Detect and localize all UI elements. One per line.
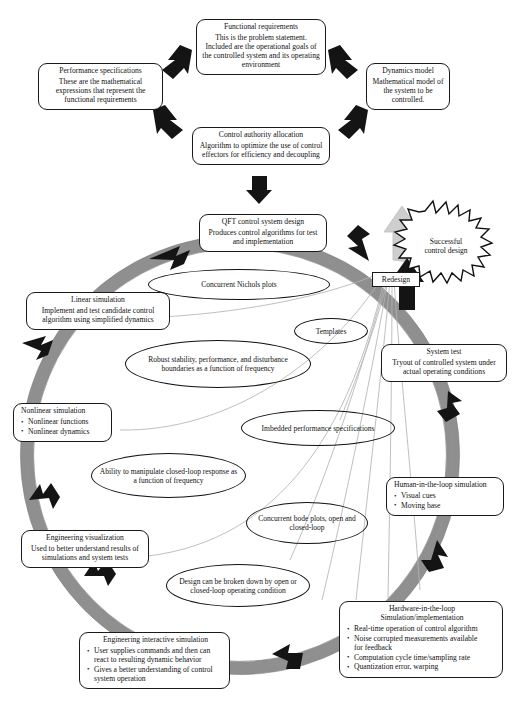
annotation-text: Ability to manipulate closed-loop respon…: [92, 467, 245, 485]
annotation-text: Concurrent bode plots, open and closed-l…: [247, 514, 367, 532]
annotation-text: Design can be broken down by open or clo…: [167, 577, 309, 595]
annotation-text: Robust stability, performance, and distu…: [126, 355, 310, 373]
list-item: Moving base: [394, 502, 498, 511]
node-body: These are the mathematical expressions t…: [44, 78, 157, 105]
node-control-authority-allocation[interactable]: Control authority allocation Algorithm t…: [192, 127, 330, 165]
node-title: Nonlinear simulation: [21, 407, 106, 416]
node-nonlinear-simulation[interactable]: Nonlinear simulation Nonlinear functions…: [13, 403, 112, 442]
annotation-concurrent-bode-plots[interactable]: Concurrent bode plots, open and closed-l…: [246, 502, 368, 544]
diagram-canvas: Functional requirements This is the prob…: [0, 0, 521, 716]
node-title-line2: Simulation/implementation: [347, 614, 497, 623]
node-title: Engineering interactive simulation: [87, 636, 224, 645]
node-engineering-interactive-simulation[interactable]: Engineering interactive simulation User …: [79, 632, 230, 689]
redesign-box[interactable]: Redesign: [372, 272, 420, 287]
annotation-templates[interactable]: Templates: [294, 318, 368, 344]
node-title: Dynamics model: [372, 67, 444, 76]
node-title: Engineering visualization: [27, 534, 143, 543]
node-title: Performance specifications: [44, 67, 157, 76]
node-bullet-list: User supplies commands and then can reac…: [87, 647, 224, 683]
list-item: Gives a better understanding of control …: [87, 666, 224, 684]
node-hardware-in-the-loop[interactable]: Hardware-in-the-loop Simulation/implemen…: [339, 601, 503, 678]
node-functional-requirements[interactable]: Functional requirements This is the prob…: [196, 19, 326, 75]
burst-line1: Successful: [430, 237, 462, 246]
node-body: Mathematical model of the system to be c…: [372, 78, 444, 105]
node-bullet-list: Nonlinear functions Nonlinear dynamics: [21, 418, 106, 436]
node-title: Control authority allocation: [198, 131, 324, 140]
node-title: Functional requirements: [202, 23, 320, 32]
node-system-test[interactable]: System test Tryout of controlled system …: [381, 344, 507, 382]
annotation-text: Imbedded performance specifications: [256, 424, 381, 433]
node-qft-control-system-design[interactable]: QFT control system design Produces contr…: [199, 214, 327, 252]
node-body: Implement and test candidate control alg…: [32, 307, 164, 325]
node-engineering-visualization[interactable]: Engineering visualization Used to better…: [21, 530, 149, 568]
node-body: This is the problem statement. Included …: [202, 34, 320, 70]
node-dynamics-model[interactable]: Dynamics model Mathematical model of the…: [366, 63, 450, 110]
node-title: System test: [387, 348, 501, 357]
node-title: Human-in-the-loop simulation: [394, 481, 498, 490]
node-bullet-list: Real-time operation of control algorithm…: [347, 625, 497, 672]
node-title: QFT control system design: [205, 218, 321, 227]
redesign-label: Redesign: [382, 275, 410, 284]
node-linear-simulation[interactable]: Linear simulation Implement and test can…: [26, 292, 170, 330]
node-human-in-the-loop[interactable]: Human-in-the-loop simulation Visual cues…: [386, 477, 504, 516]
burst-line2: control design: [424, 246, 467, 255]
node-body: Algorithm to optimize the use of control…: [198, 142, 324, 160]
node-bullet-list: Visual cues Moving base: [394, 492, 498, 510]
node-title: Linear simulation: [32, 296, 164, 305]
node-body: Used to better understand results of sim…: [27, 545, 143, 563]
annotation-robust-stability[interactable]: Robust stability, performance, and distu…: [125, 340, 311, 388]
list-item: Nonlinear dynamics: [21, 428, 106, 437]
annotation-text: Concurrent Nichols plots: [195, 280, 282, 289]
node-body: Tryout of controlled system under actual…: [387, 359, 501, 377]
annotation-imbedded-performance-specifications[interactable]: Imbedded performance specifications: [241, 410, 395, 446]
annotation-concurrent-nichols-plots[interactable]: Concurrent Nichols plots: [148, 269, 330, 300]
annotation-design-broken-down[interactable]: Design can be broken down by open or clo…: [166, 564, 310, 607]
list-item: Quantization error, warping: [347, 663, 497, 672]
list-item-continuation: for feedback: [347, 644, 497, 653]
annotation-ability-to-manipulate[interactable]: Ability to manipulate closed-loop respon…: [91, 453, 246, 498]
annotation-text: Templates: [310, 327, 353, 336]
node-performance-specifications[interactable]: Performance specifications These are the…: [38, 63, 163, 110]
node-body: Produces control algorithms for test and…: [205, 229, 321, 247]
list-item: User supplies commands and then can reac…: [87, 647, 224, 665]
